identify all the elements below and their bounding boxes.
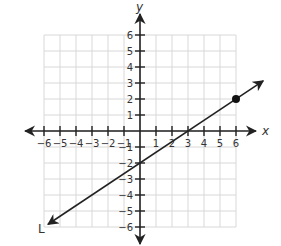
coordinate-plane: −6−5−4−3−2−1123456−6−5−4−3−2−1123456 x y… <box>0 0 281 246</box>
data-point <box>232 95 240 103</box>
y-tick-label: 4 <box>127 62 133 73</box>
x-tick-label: −4 <box>69 138 84 149</box>
y-axis-label: y <box>135 0 144 14</box>
y-tick-label: −2 <box>118 158 133 169</box>
y-tick-label: −4 <box>118 190 133 201</box>
x-tick-label: 6 <box>233 138 239 149</box>
x-tick-label: 5 <box>217 138 223 149</box>
x-tick-label: −3 <box>85 138 100 149</box>
x-tick-label: −2 <box>101 138 116 149</box>
line-label: L <box>38 222 45 236</box>
y-tick-label: 5 <box>127 46 133 57</box>
x-tick-label: 4 <box>201 138 207 149</box>
y-tick-label: 3 <box>127 78 133 89</box>
x-tick-label: 3 <box>185 138 191 149</box>
y-tick-label: −1 <box>118 142 133 153</box>
y-tick-label: 2 <box>127 94 133 105</box>
x-tick-label: −5 <box>53 138 68 149</box>
y-tick-label: −6 <box>118 222 133 233</box>
y-tick-label: 6 <box>127 30 133 41</box>
x-tick-label: −6 <box>37 138 52 149</box>
x-axis-label: x <box>261 124 270 138</box>
y-tick-label: 1 <box>127 110 133 121</box>
y-tick-label: −5 <box>118 206 133 217</box>
x-tick-label: 1 <box>153 138 159 149</box>
